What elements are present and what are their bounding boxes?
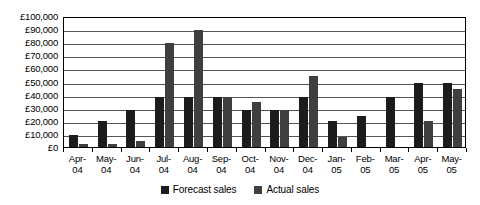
x-tickmark [149, 148, 150, 152]
bar-forecast[interactable] [155, 97, 164, 147]
bar-group [381, 18, 410, 147]
x-tick-label-line: 04 [265, 164, 294, 175]
y-tick-label: £80,000 [25, 38, 58, 48]
x-tick-label-line: May- [437, 153, 466, 164]
x-tickmark [63, 148, 64, 152]
x-tickmark [380, 148, 381, 152]
bar-group [93, 18, 122, 147]
x-tick-label: Dec-04 [293, 153, 322, 175]
x-tick-label: Apr-05 [408, 153, 437, 175]
x-tickmark [322, 148, 323, 152]
bar-actual[interactable] [223, 97, 232, 147]
x-tick-label-line: 05 [322, 164, 351, 175]
bar-actual[interactable] [280, 110, 289, 147]
legend-swatch-icon [161, 186, 169, 194]
x-tick-label-line: Aug- [178, 153, 207, 164]
x-tick-label-line: Jan- [322, 153, 351, 164]
y-tick-label: £50,000 [25, 78, 58, 88]
bar-group [294, 18, 323, 147]
x-tickmark [92, 148, 93, 152]
bar-actual[interactable] [453, 89, 462, 147]
bar-actual[interactable] [424, 121, 433, 147]
bar-actual[interactable] [136, 141, 145, 147]
legend-label: Actual sales [266, 185, 319, 195]
y-tick-label: £30,000 [25, 104, 58, 114]
bars-layer [64, 18, 465, 147]
x-tick-label-line: Oct- [236, 153, 265, 164]
legend-swatch-icon [254, 186, 262, 194]
x-tick-label-line: 05 [437, 164, 466, 175]
x-tick-label-line: Jul- [149, 153, 178, 164]
x-tick-label-line: 04 [236, 164, 265, 175]
x-tick-label-line: Feb- [351, 153, 380, 164]
bar-forecast[interactable] [213, 97, 222, 147]
x-axis: Apr-04May-04Jun-04Jul-04Aug-04Sep-04Oct-… [63, 153, 466, 183]
x-tick-label-line: 05 [380, 164, 409, 175]
x-tick-label-line: 04 [178, 164, 207, 175]
x-tick-label: Sep-04 [207, 153, 236, 175]
bar-forecast[interactable] [386, 97, 395, 147]
x-tick-label: Feb-05 [351, 153, 380, 175]
bar-actual[interactable] [165, 43, 174, 147]
y-tick-label: £20,000 [25, 117, 58, 127]
y-tick-label: £60,000 [25, 64, 58, 74]
bar-forecast[interactable] [69, 135, 78, 147]
x-tick-label: Jul-04 [149, 153, 178, 175]
chart-legend: Forecast salesActual sales [0, 182, 480, 198]
bar-actual[interactable] [309, 76, 318, 147]
bar-actual[interactable] [252, 102, 261, 147]
plot-area [63, 17, 466, 148]
x-tick-label-line: Jun- [121, 153, 150, 164]
x-tick-label: Nov-04 [265, 153, 294, 175]
bar-group [208, 18, 237, 147]
bar-actual[interactable] [79, 144, 88, 147]
x-tickmark [293, 148, 294, 152]
bar-forecast[interactable] [126, 110, 135, 147]
x-tickmark [121, 148, 122, 152]
x-tickmark [265, 148, 266, 152]
bar-group [438, 18, 467, 147]
x-tickmark [466, 148, 467, 152]
bar-forecast[interactable] [414, 83, 423, 147]
y-tick-label: £10,000 [25, 130, 58, 140]
x-tick-label-line: Sep- [207, 153, 236, 164]
x-tick-label-line: 04 [207, 164, 236, 175]
bar-group [352, 18, 381, 147]
legend-entry[interactable]: Actual sales [254, 185, 319, 195]
bar-group [323, 18, 352, 147]
bar-forecast[interactable] [443, 83, 452, 147]
x-tick-label-line: Mar- [380, 153, 409, 164]
x-tick-label-line: Apr- [63, 153, 92, 164]
bar-forecast[interactable] [328, 121, 337, 147]
x-tick-label: Jun-04 [121, 153, 150, 175]
bar-forecast[interactable] [357, 116, 366, 147]
bar-actual[interactable] [194, 30, 203, 147]
y-tick-label: £100,000 [20, 12, 58, 22]
bar-forecast[interactable] [270, 110, 279, 147]
x-tick-label-line: Nov- [265, 153, 294, 164]
x-tick-label-line: 05 [351, 164, 380, 175]
bar-group [150, 18, 179, 147]
x-tick-label: Jan-05 [322, 153, 351, 175]
x-tick-label: Apr-04 [63, 153, 92, 175]
x-tick-label-line: 04 [121, 164, 150, 175]
y-axis: £100,000£90,000£80,000£70,000£60,000£50,… [0, 0, 62, 205]
bar-actual[interactable] [338, 137, 347, 147]
bar-forecast[interactable] [299, 97, 308, 147]
x-tick-label-line: Dec- [293, 153, 322, 164]
bar-forecast[interactable] [242, 110, 251, 147]
bar-group [64, 18, 93, 147]
x-tickmark [178, 148, 179, 152]
x-tick-label-line: Apr- [408, 153, 437, 164]
legend-entry[interactable]: Forecast sales [161, 185, 237, 195]
y-tick-label: £40,000 [25, 91, 58, 101]
x-tick-label: May-05 [437, 153, 466, 175]
x-tick-label-line: 05 [408, 164, 437, 175]
bar-actual[interactable] [108, 144, 117, 147]
sales-bar-chart: £100,000£90,000£80,000£70,000£60,000£50,… [0, 0, 480, 205]
x-tickmark [408, 148, 409, 152]
bar-forecast[interactable] [184, 97, 193, 147]
x-tick-label-line: 04 [92, 164, 121, 175]
y-tick-label: £90,000 [25, 25, 58, 35]
bar-forecast[interactable] [98, 121, 107, 147]
